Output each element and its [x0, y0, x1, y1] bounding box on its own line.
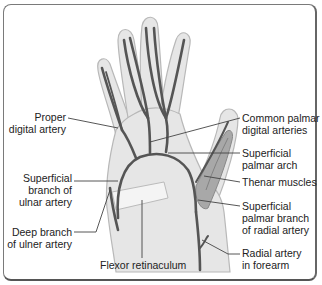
label-superficial-palmar-arch: Superficial palmar arch: [242, 147, 297, 171]
label-common-palmar-digital-arteries: Common palmar digital arteries: [242, 112, 320, 136]
label-flexor-retinaculum: Flexor retinaculum: [100, 259, 186, 271]
label-superficial-branch-ulnar-artery: Superficial branch of ulnar artery: [19, 172, 72, 208]
label-thenar-muscles: Thenar muscles: [242, 176, 317, 188]
label-radial-artery-forearm: Radial artery in forearm: [242, 247, 302, 271]
label-deep-branch-ulner-artery: Deep branch of ulner artery: [7, 226, 72, 250]
label-superficial-palmar-branch-radial-artery: Superficial palmar branch of radial arte…: [242, 200, 309, 236]
label-proper-digital-artery: Proper digital artery: [9, 111, 66, 135]
